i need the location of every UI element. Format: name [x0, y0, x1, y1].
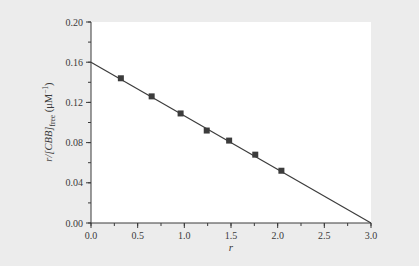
x-tick-label: 3.0: [365, 230, 378, 241]
chart: 0.00.51.01.52.02.53.0 0.000.040.080.120.…: [0, 0, 419, 266]
x-tick-label: 2.5: [318, 230, 331, 241]
y-axis-ticks: 0.000.040.080.120.160.20: [66, 17, 92, 229]
y-tick-label: 0.12: [66, 97, 84, 108]
y-tick-label: 0.16: [66, 57, 84, 68]
square-marker: [149, 93, 155, 99]
x-axis-ticks: 0.00.51.01.52.02.53.0: [85, 223, 378, 241]
y-tick-label: 0.20: [66, 17, 84, 28]
square-marker: [118, 75, 124, 81]
y-label-subscript: free: [48, 114, 57, 126]
x-tick-label: 2.0: [271, 230, 284, 241]
y-label-units: (μM: [43, 93, 55, 115]
x-axis-label: r: [229, 241, 234, 253]
scatter-plot: 0.00.51.01.52.02.53.0 0.000.040.080.120.…: [0, 0, 419, 266]
x-tick-label: 0.5: [131, 230, 144, 241]
y-axis-label: r/[CBB]free (μM−1): [41, 82, 57, 162]
y-tick-label: 0.04: [66, 177, 84, 188]
square-marker: [204, 128, 210, 134]
square-marker: [278, 168, 284, 174]
y-tick-label: 0.00: [66, 218, 84, 229]
plot-area: [91, 22, 371, 223]
y-label-units-close: ): [43, 82, 55, 86]
square-marker: [252, 152, 258, 158]
x-tick-label: 1.0: [178, 230, 191, 241]
square-marker: [226, 138, 232, 144]
y-label-units-exponent: −1: [41, 86, 50, 94]
x-tick-label: 0.0: [85, 230, 98, 241]
y-tick-label: 0.08: [66, 137, 84, 148]
square-marker: [178, 110, 184, 116]
y-label-prefix: r/[CBB]: [43, 127, 54, 162]
x-tick-label: 1.5: [225, 230, 238, 241]
